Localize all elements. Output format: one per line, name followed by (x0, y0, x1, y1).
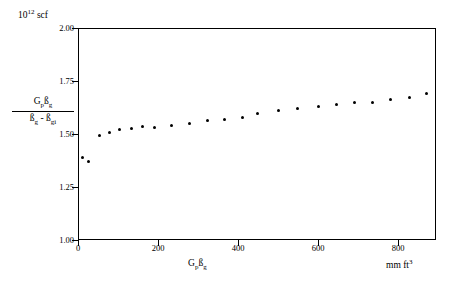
fraction-bar (12, 111, 74, 112)
data-point (170, 124, 173, 127)
plot-area (78, 28, 436, 240)
data-point (206, 119, 209, 122)
x-tick-mark (238, 240, 239, 246)
y-tick-label-3: 1.75 (0, 76, 74, 86)
y-axis-units-label: 1012 scf (18, 8, 48, 20)
x-tick-mark (398, 240, 399, 246)
units-suffix: scf (35, 10, 48, 20)
units-mantissa: 10 (18, 10, 28, 20)
data-point (223, 118, 226, 121)
y-tick-label-2: 1.50 (0, 129, 74, 139)
data-point (188, 122, 191, 125)
data-point (141, 125, 144, 128)
data-point (296, 107, 299, 110)
y-axis-title: Gpßg ßg - ßgi (10, 96, 76, 126)
y-tick-label-1: 1.25 (0, 182, 74, 192)
x-tick-mark (78, 240, 79, 246)
data-point (408, 96, 411, 99)
units-exponent: 12 (28, 8, 35, 16)
data-point (130, 127, 133, 130)
data-point (389, 98, 392, 101)
x-tick-mark (318, 240, 319, 246)
data-point (108, 131, 111, 134)
data-point (241, 116, 244, 119)
data-point (371, 101, 374, 104)
data-point (353, 101, 356, 104)
data-point (256, 112, 259, 115)
data-point (425, 92, 428, 95)
data-point (81, 156, 84, 159)
data-point (98, 134, 101, 137)
data-point (87, 160, 90, 163)
data-point (277, 109, 280, 112)
y-axis-title-denominator: ßg - ßgi (10, 113, 76, 127)
x-axis-units-label: mm ft3 (386, 258, 412, 270)
data-point (118, 128, 121, 131)
y-axis-title-numerator: Gpßg (10, 96, 76, 110)
data-point (153, 126, 156, 129)
x-axis-title: Gpßg (188, 258, 207, 271)
scatter-chart: 1012 scf Gpßg ßg - ßgi Gpßg mm ft3 1.00 … (0, 0, 457, 294)
data-point (335, 103, 338, 106)
y-tick-label-4: 2.00 (0, 23, 74, 33)
x-tick-mark (158, 240, 159, 246)
data-point (317, 105, 320, 108)
